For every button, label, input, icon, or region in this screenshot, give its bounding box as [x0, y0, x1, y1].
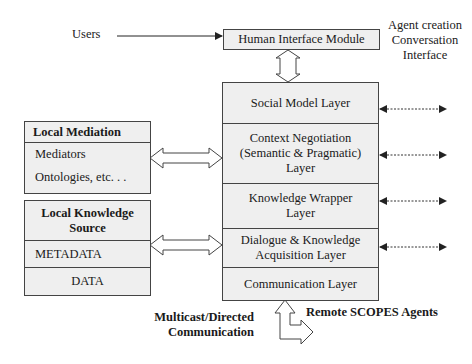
remote-scopes-agents-label: Remote SCOPES Agents	[306, 305, 438, 320]
layer-context-line-2: (Semantic & Pragmatic)	[240, 146, 362, 161]
layer-communication-label: Communication Layer	[244, 277, 357, 292]
layer-knowledge-wrapper: Knowledge Wrapper Layer	[223, 183, 378, 228]
multicast-label: Multicast/Directed Communication	[140, 310, 254, 340]
layer-social-model: Social Model Layer	[223, 83, 378, 123]
layer-wrapper-line-1: Knowledge Wrapper	[249, 191, 353, 206]
lks-title-line-2: Source	[69, 221, 106, 236]
him-social-double-arrow	[276, 50, 300, 82]
users-label: Users	[72, 27, 100, 42]
local-mediation-title: Local Mediation	[25, 122, 150, 142]
agent-creation-label: Agent creation Conversation Interface	[378, 18, 472, 63]
local-knowledge-source-box: Local Knowledge Source METADATA DATA	[24, 200, 151, 296]
local-mediation-items: Mediators Ontologies, etc. . .	[25, 142, 150, 193]
agent-layer-stack: Social Model Layer Context Negotiation (…	[222, 82, 379, 301]
multicast-line-2: Communication	[140, 325, 254, 340]
lks-title-line-1: Local Knowledge	[41, 206, 134, 221]
agent-creation-line-1: Agent creation	[378, 18, 472, 33]
knowledge-dialogue-double-arrow	[150, 235, 222, 255]
layer-wrapper-line-2: Layer	[286, 206, 315, 221]
layer-context-line-3: Layer	[286, 161, 315, 176]
mediation-context-double-arrow	[150, 148, 222, 168]
agent-creation-line-2: Conversation	[378, 33, 472, 48]
mediators-item: Mediators	[35, 147, 86, 162]
layer-dialogue-line-2: Acquisition Layer	[255, 248, 346, 263]
data-cell: DATA	[25, 267, 150, 295]
metadata-cell: METADATA	[25, 240, 150, 267]
layer-social-model-label: Social Model Layer	[251, 96, 350, 111]
local-knowledge-source-title: Local Knowledge Source	[25, 201, 150, 240]
local-mediation-box: Local Mediation Mediators Ontologies, et…	[24, 121, 151, 194]
layer-context-negotiation: Context Negotiation (Semantic & Pragmati…	[223, 123, 378, 183]
layer-communication: Communication Layer	[223, 267, 378, 300]
human-interface-module: Human Interface Module	[223, 29, 380, 50]
agent-creation-line-3: Interface	[378, 48, 472, 63]
human-interface-module-label: Human Interface Module	[224, 30, 379, 49]
multicast-line-1: Multicast/Directed	[140, 310, 254, 325]
ontologies-item: Ontologies, etc. . .	[35, 170, 126, 185]
layer-dialogue-line-1: Dialogue & Knowledge	[241, 233, 360, 248]
layer-context-line-1: Context Negotiation	[250, 131, 352, 146]
layer-dialogue-acquisition: Dialogue & Knowledge Acquisition Layer	[223, 228, 378, 267]
